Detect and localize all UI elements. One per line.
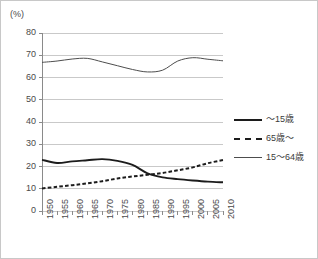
series-line <box>42 58 223 72</box>
series-line <box>42 159 223 182</box>
x-axis-tick-label: 2005 <box>212 199 221 219</box>
y-axis-tick-label: 50 <box>14 95 36 104</box>
legend-item[interactable]: 65歳〜 <box>234 128 316 147</box>
y-axis-tick-label: 30 <box>14 139 36 148</box>
y-axis-tick-label: 10 <box>14 184 36 193</box>
y-axis-tick-label: 70 <box>14 50 36 59</box>
x-axis-tick-label: 1975 <box>121 199 130 219</box>
x-axis-tick-label: 1985 <box>152 199 161 219</box>
legend-item-label: 〜15歳 <box>266 112 294 125</box>
legend-line-swatch-icon <box>234 133 262 143</box>
chart-container: (%) 01020304050607080 195019551960196519… <box>0 0 318 259</box>
legend-item-label: 65歳〜 <box>266 131 294 144</box>
y-axis-tick-label: 60 <box>14 73 36 82</box>
x-axis-tick-label: 1960 <box>76 199 85 219</box>
chart-legend: 〜15歳65歳〜15〜64歳 <box>234 109 316 166</box>
x-axis-tick-label: 1955 <box>61 199 70 219</box>
x-axis-tick-label: 1980 <box>137 199 146 219</box>
legend-line-swatch-icon <box>234 152 262 162</box>
x-axis-tick-label: 1970 <box>106 199 115 219</box>
y-axis-tick-label: 80 <box>14 28 36 37</box>
legend-item-label: 15〜64歳 <box>266 150 304 163</box>
x-axis-tick-label: 1950 <box>46 199 55 219</box>
axis-lines <box>39 33 223 215</box>
y-axis-tick-label: 20 <box>14 162 36 171</box>
y-axis-tick-label: 40 <box>14 117 36 126</box>
x-axis-tick-label: 2000 <box>197 199 206 219</box>
x-axis-tick-label: 1995 <box>182 199 191 219</box>
legend-item[interactable]: 〜15歳 <box>234 109 316 128</box>
x-axis-tick-label: 1965 <box>91 199 100 219</box>
x-axis-tick-label: 2010 <box>227 199 236 219</box>
legend-item[interactable]: 15〜64歳 <box>234 147 316 166</box>
x-axis-tick-label: 1990 <box>167 199 176 219</box>
legend-line-swatch-icon <box>234 114 262 124</box>
y-axis-tick-label: 0 <box>14 206 36 215</box>
